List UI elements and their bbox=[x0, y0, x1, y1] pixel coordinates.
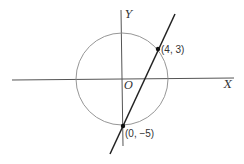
point-label-4-3: (4, 3) bbox=[161, 44, 184, 55]
y-axis-label: Y bbox=[125, 8, 134, 21]
point-label-0-neg5: (0, −5) bbox=[125, 128, 154, 139]
point-4-3 bbox=[156, 47, 160, 51]
x-axis-label: X bbox=[223, 78, 233, 91]
x-axis bbox=[12, 78, 234, 80]
coordinate-diagram: Y O X (4, 3) (0, −5) bbox=[0, 0, 244, 164]
origin-label: O bbox=[124, 79, 133, 92]
